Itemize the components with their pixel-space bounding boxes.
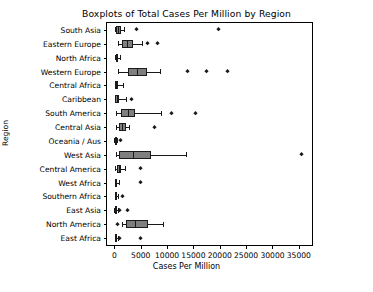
cap-high xyxy=(119,180,120,185)
median-line xyxy=(115,137,116,145)
outlier-point xyxy=(125,208,129,212)
y-tick-label: Oceania / Aus xyxy=(49,136,101,145)
y-tick-label: Eastern Europe xyxy=(43,39,101,48)
outlier-point xyxy=(115,222,119,226)
x-tick xyxy=(141,246,142,249)
x-tick-label: 0 xyxy=(112,251,117,260)
x-tick xyxy=(114,246,115,249)
x-tick-label: 25000 xyxy=(234,251,258,260)
y-tick xyxy=(104,99,107,100)
y-tick-label: Central Asia xyxy=(55,123,101,132)
whisker-high xyxy=(133,44,142,45)
outlier-point xyxy=(155,41,159,45)
x-axis-label: Cases Per Million xyxy=(0,262,373,271)
outlier-point xyxy=(204,69,208,73)
y-tick-label: Central America xyxy=(40,164,101,173)
median-line xyxy=(127,40,128,48)
y-tick-label: North America xyxy=(46,220,101,229)
whisker-high xyxy=(147,72,161,73)
x-tick-label: 20000 xyxy=(208,251,232,260)
median-line xyxy=(115,206,116,214)
cap-low xyxy=(116,152,117,157)
whisker-high xyxy=(119,99,126,100)
y-tick-label: South Asia xyxy=(61,25,101,34)
outlier-point xyxy=(226,69,230,73)
outlier-point xyxy=(217,28,221,32)
cap-high xyxy=(124,27,125,32)
x-tick-label: 5000 xyxy=(131,251,150,260)
cap-high xyxy=(118,194,119,199)
y-tick xyxy=(104,127,107,128)
chart-title: Boxplots of Total Cases Per Million by R… xyxy=(0,8,373,19)
y-tick-label: East Africa xyxy=(61,234,101,243)
outlier-point xyxy=(193,111,197,115)
y-tick xyxy=(104,169,107,170)
cap-low xyxy=(116,125,117,130)
boxes-layer xyxy=(107,23,312,245)
y-tick-label: Caribbean xyxy=(62,95,101,104)
cap-low xyxy=(118,69,119,74)
x-tick xyxy=(220,246,221,249)
box xyxy=(126,220,148,228)
cap-high xyxy=(123,83,124,88)
outlier-point xyxy=(186,69,190,73)
x-tick xyxy=(193,246,194,249)
outlier-point xyxy=(300,152,304,156)
outlier-point xyxy=(139,166,143,170)
x-tick xyxy=(299,246,300,249)
median-line xyxy=(116,179,117,187)
y-tick xyxy=(104,224,107,225)
median-line xyxy=(117,54,118,62)
y-tick xyxy=(104,85,107,86)
cap-high xyxy=(160,69,161,74)
whisker-high xyxy=(151,155,186,156)
cap-high xyxy=(120,55,121,60)
y-tick xyxy=(104,196,107,197)
cap-high xyxy=(126,97,127,102)
outlier-point xyxy=(145,41,149,45)
y-tick-label: South America xyxy=(45,109,101,118)
outlier-point xyxy=(118,208,122,212)
outlier-point xyxy=(119,139,123,143)
y-tick xyxy=(104,44,107,45)
cap-high xyxy=(142,41,143,46)
y-tick xyxy=(104,58,107,59)
median-line xyxy=(128,109,129,117)
x-tick xyxy=(167,246,168,249)
plot-area: South AsiaEastern EuropeNorth AfricaWest… xyxy=(106,22,313,246)
cap-high xyxy=(186,152,187,157)
outlier-point xyxy=(139,180,143,184)
median-line xyxy=(116,192,117,200)
x-tick xyxy=(272,246,273,249)
outlier-point xyxy=(170,111,174,115)
cap-high xyxy=(163,222,164,227)
median-line xyxy=(119,165,120,173)
outlier-point xyxy=(117,236,121,240)
y-tick-label: West Asia xyxy=(64,150,101,159)
median-line xyxy=(116,81,117,89)
x-tick-label: 35000 xyxy=(287,251,311,260)
y-tick-label: East Asia xyxy=(66,206,101,215)
median-line xyxy=(133,151,134,159)
y-tick-label: Southern Africa xyxy=(42,192,101,201)
outlier-point xyxy=(152,125,156,129)
outlier-point xyxy=(130,97,134,101)
outlier-point xyxy=(134,28,138,32)
cap-low xyxy=(116,111,117,116)
y-tick xyxy=(104,72,107,73)
y-tick-label: Central Africa xyxy=(49,81,101,90)
cap-high xyxy=(125,166,126,171)
boxplot-figure: Boxplots of Total Cases Per Million by R… xyxy=(0,0,373,292)
y-tick-label: North Africa xyxy=(56,53,101,62)
y-tick xyxy=(104,155,107,156)
whisker-high xyxy=(135,113,161,114)
outlier-point xyxy=(121,194,125,198)
cap-low xyxy=(118,41,119,46)
median-line xyxy=(137,68,138,76)
y-tick-label: Western Europe xyxy=(41,67,101,76)
x-tick-label: 10000 xyxy=(155,251,179,260)
box xyxy=(119,151,151,159)
cap-high xyxy=(161,111,162,116)
y-tick xyxy=(104,141,107,142)
y-tick xyxy=(104,30,107,31)
